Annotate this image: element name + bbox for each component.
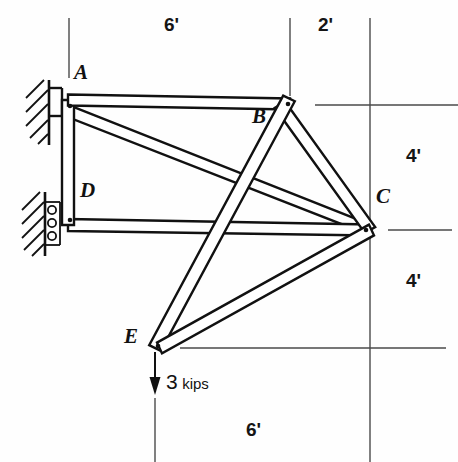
wall-hatch-support-a bbox=[26, 80, 48, 144]
node-label-E: E bbox=[124, 326, 138, 347]
load-arrow-at-E bbox=[150, 352, 161, 395]
load-magnitude: 3 bbox=[166, 370, 178, 393]
dimension-label-right-lower: 4' bbox=[406, 271, 421, 290]
truss-members bbox=[62, 95, 375, 354]
node-pin-A bbox=[68, 104, 73, 109]
load-unit: kips bbox=[182, 375, 209, 392]
dimension-label-top-span-BC: 2' bbox=[318, 15, 333, 34]
dimension-label-right-upper: 4' bbox=[406, 146, 421, 165]
node-pin-C bbox=[364, 228, 369, 233]
node-label-C: C bbox=[376, 186, 390, 207]
roller-3 bbox=[48, 232, 56, 240]
node-label-A: A bbox=[74, 62, 88, 83]
member-AD bbox=[62, 100, 74, 225]
load-arrow-head bbox=[150, 377, 161, 395]
roller-2 bbox=[48, 219, 56, 227]
roller-1 bbox=[48, 206, 56, 214]
node-pin-B bbox=[286, 102, 291, 107]
dimension-label-bottom-span: 6' bbox=[246, 420, 261, 439]
wall-hatch-support-d bbox=[22, 192, 44, 256]
node-pin-E bbox=[156, 344, 161, 349]
node-pin-D bbox=[68, 218, 73, 223]
pin-support-a-bracket bbox=[49, 88, 62, 116]
dimension-lines bbox=[69, 18, 458, 462]
node-label-B: B bbox=[252, 106, 266, 127]
dimension-label-top-span-AB: 6' bbox=[164, 15, 179, 34]
truss-diagram: A B C D E 6' 2' 4' 4' 6' 3 kips bbox=[0, 0, 458, 462]
roller-support-d bbox=[45, 202, 60, 245]
node-label-D: D bbox=[80, 180, 95, 201]
load-label: 3 kips bbox=[166, 370, 209, 394]
truss-drawing-canvas bbox=[0, 0, 458, 462]
